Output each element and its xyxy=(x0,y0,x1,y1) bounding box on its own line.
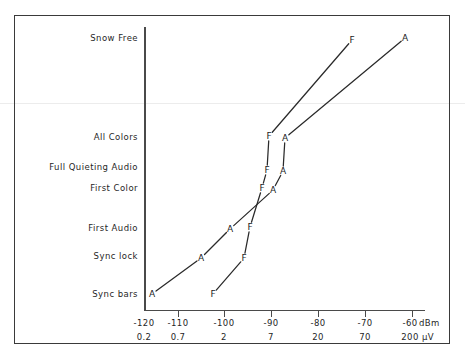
data-point-f-6: F xyxy=(349,36,354,45)
x-tick-mark-70 xyxy=(365,310,366,317)
x-label-dbm-90: -90 xyxy=(263,318,278,328)
figure-page: Snow Free All Colors Full Quieting Audio… xyxy=(0,0,465,356)
data-point-a-3: A xyxy=(270,186,276,195)
data-point-f-0: F xyxy=(210,290,215,299)
x-label-dbm-70: -70 xyxy=(357,318,372,328)
x-tick-mark-90 xyxy=(271,310,272,317)
y-label-sync-lock: Sync lock xyxy=(94,251,138,261)
data-point-f-3: F xyxy=(259,184,264,193)
x-axis-line xyxy=(144,310,425,312)
x-label-dbm-120: -120 xyxy=(134,318,155,328)
data-point-a-0: A xyxy=(149,290,155,299)
x-label-uv-200: 200 xyxy=(401,332,418,342)
y-axis-labels: Snow Free All Colors Full Quieting Audio… xyxy=(0,0,138,356)
x-label-uv-2: 2 xyxy=(221,332,227,342)
y-label-sync-bars: Sync bars xyxy=(92,289,138,299)
data-point-a-1: A xyxy=(198,254,204,263)
x-label-uv-7: 7 xyxy=(268,332,274,342)
x-tick-mark-100 xyxy=(224,310,225,317)
data-point-f-5: F xyxy=(266,132,271,141)
y-axis-line xyxy=(144,27,146,311)
x-label-uv-70: 70 xyxy=(359,332,371,342)
y-label-full-quieting-audio: Full Quieting Audio xyxy=(49,162,138,172)
x-tick-mark-110 xyxy=(178,310,179,317)
x-label-uv-0p2: 0.2 xyxy=(137,332,152,342)
y-label-snow-free: Snow Free xyxy=(90,33,138,43)
x-unit-microvolt: µV xyxy=(422,332,434,342)
x-unit-dbm: dBm xyxy=(419,318,440,328)
x-label-uv-20: 20 xyxy=(312,332,324,342)
x-label-uv-0p7: 0.7 xyxy=(171,332,186,342)
x-tick-mark-80 xyxy=(318,310,319,317)
data-point-a-5: A xyxy=(282,134,288,143)
y-label-first-color: First Color xyxy=(90,183,138,193)
x-label-dbm-80: -80 xyxy=(310,318,325,328)
y-label-first-audio: First Audio xyxy=(88,223,138,233)
data-point-a-4: A xyxy=(280,167,286,176)
x-label-dbm-110: -110 xyxy=(168,318,189,328)
data-point-f-4: F xyxy=(264,166,269,175)
x-tick-mark-60 xyxy=(412,310,413,317)
y-label-all-colors: All Colors xyxy=(94,132,138,142)
x-label-dbm-100: -100 xyxy=(214,318,235,328)
data-point-f-2: F xyxy=(247,223,252,232)
data-point-a-2: A xyxy=(227,225,233,234)
data-point-a-6: A xyxy=(402,34,408,43)
data-point-f-1: F xyxy=(241,254,246,263)
x-label-dbm-60: -60 xyxy=(402,318,417,328)
